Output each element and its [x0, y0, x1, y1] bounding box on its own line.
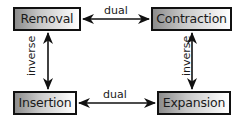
node-expansion: Expansion	[157, 91, 231, 115]
node-label: Expansion	[163, 96, 226, 110]
node-label: Insertion	[18, 96, 71, 110]
edge-label-dual-bottom: dual	[103, 89, 127, 100]
edge-label-inverse-right: inverse	[181, 36, 192, 76]
node-removal: Removal	[13, 7, 81, 31]
node-label: Removal	[21, 12, 74, 26]
node-label: Contraction	[156, 12, 227, 26]
node-insertion: Insertion	[13, 91, 77, 115]
edge-label-dual-top: dual	[104, 5, 128, 16]
edge-label-inverse-left: inverse	[26, 36, 37, 76]
node-contraction: Contraction	[151, 7, 232, 31]
